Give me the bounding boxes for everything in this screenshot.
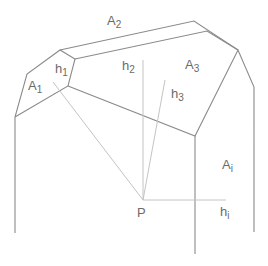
edge-a2-bottom	[75, 31, 238, 59]
label-a1: A1	[28, 79, 42, 95]
label-a3: A3	[185, 58, 199, 74]
height-h3	[143, 80, 165, 200]
polyhedron-diagram: A1 A2 A3 Ai h1 h2 h3 hi P	[0, 0, 268, 266]
label-hi: hi	[220, 205, 229, 221]
label-h3: h3	[171, 87, 184, 103]
edge-a2-top	[60, 21, 238, 50]
label-point-p: P	[137, 206, 146, 219]
label-ai: Ai	[222, 158, 233, 174]
diagram-lines	[0, 0, 268, 266]
label-h2: h2	[122, 59, 135, 75]
height-h1	[53, 82, 143, 200]
label-a2: A2	[107, 14, 121, 30]
label-h1: h1	[55, 62, 68, 78]
